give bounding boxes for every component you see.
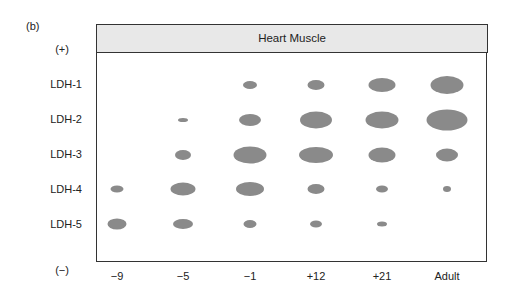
gel-frame <box>96 24 487 262</box>
spot-ldh-5-col0 <box>108 219 127 230</box>
x-tick-plus21: +21 <box>357 270 407 282</box>
x-tick-minus9: −9 <box>92 270 142 282</box>
spot-ldh-1-col2 <box>243 81 257 89</box>
row-label-ldh3: LDH-3 <box>22 148 82 160</box>
positive-pole-label: (+) <box>42 43 82 55</box>
spot-ldh-4-col2 <box>236 182 264 196</box>
row-label-ldh4: LDH-4 <box>22 183 82 195</box>
spot-ldh-4-col4 <box>376 186 388 193</box>
spot-ldh-5-col2 <box>244 220 257 228</box>
spot-ldh-5-col3 <box>310 221 322 228</box>
spot-ldh-5-col4 <box>377 222 387 227</box>
spot-ldh-2-col1 <box>178 118 188 122</box>
spot-ldh-1-col3 <box>308 80 325 90</box>
row-label-ldh1: LDH-1 <box>22 78 82 90</box>
x-tick-plus12: +12 <box>291 270 341 282</box>
spot-ldh-1-col4 <box>369 78 396 92</box>
header-title: Heart Muscle <box>97 32 487 44</box>
spot-ldh-2-col5 <box>427 110 468 131</box>
row-label-ldh2: LDH-2 <box>22 113 82 125</box>
spot-ldh-3-col1 <box>175 150 191 160</box>
x-tick-minus1: −1 <box>225 270 275 282</box>
gel-header: Heart Muscle <box>96 24 488 53</box>
spot-ldh-3-col4 <box>369 148 396 163</box>
x-tick-minus5: −5 <box>158 270 208 282</box>
spot-ldh-4-col1 <box>171 183 196 196</box>
spot-ldh-4-col0 <box>111 186 124 193</box>
x-tick-adult: Adult <box>422 270 472 282</box>
row-label-ldh5: LDH-5 <box>22 218 82 230</box>
spot-ldh-3-col2 <box>234 147 267 164</box>
spot-ldh-2-col2 <box>239 114 261 126</box>
spot-ldh-3-col3 <box>299 147 333 163</box>
spot-ldh-3-col5 <box>436 149 458 162</box>
spot-ldh-5-col1 <box>173 219 193 229</box>
spot-ldh-4-col3 <box>308 184 325 194</box>
negative-pole-label: (−) <box>42 264 82 276</box>
spot-ldh-2-col4 <box>366 112 399 129</box>
spot-ldh-4-col5 <box>443 186 451 192</box>
spot-ldh-1-col5 <box>431 76 464 94</box>
spot-ldh-2-col3 <box>300 112 332 129</box>
panel-label: (b) <box>26 20 39 32</box>
